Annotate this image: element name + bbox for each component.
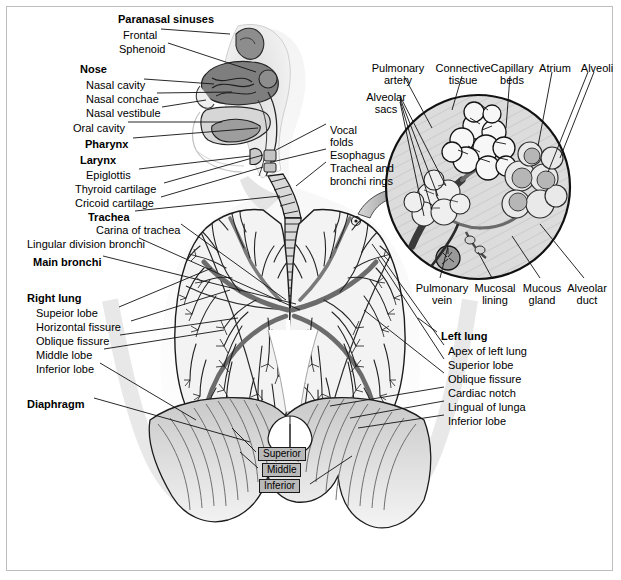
label-left-lung-3: Oblique fissure — [448, 373, 521, 385]
label-mid-column-4: bronchi rings — [330, 175, 393, 187]
lobe-box-1: Middle — [262, 463, 301, 477]
label-left-lung-2: Superior lobe — [448, 359, 513, 371]
label-left-lung-0: Left lung — [441, 330, 487, 342]
label-left-column-6: Horizontal fissure — [36, 321, 121, 333]
label-left-lung-4: Cardiac notch — [448, 387, 516, 399]
label-left-lung-5: Lingual of lunga — [448, 401, 526, 413]
label-upper-airway-1: Frontal — [123, 29, 157, 41]
respiratory-system-figure: Paranasal sinusesFrontalSphenoidNoseNasa… — [0, 0, 621, 580]
label-upper-airway-4: Nasal cavity — [86, 79, 145, 91]
label-left-column-0: Trachea — [88, 211, 130, 223]
label-left-column-10: Diaphragm — [27, 398, 84, 410]
label-inset-top-0: Pulmonaryartery — [367, 62, 429, 86]
label-left-column-8: Middle lobe — [36, 349, 92, 361]
label-upper-airway-8: Pharynx — [85, 138, 128, 150]
label-left-lung-1: Apex of left lung — [448, 345, 527, 357]
label-inset-top-4: Alveoli — [576, 62, 618, 74]
label-left-column-7: Oblique fissure — [36, 335, 109, 347]
label-inset-top-3: Atrium — [534, 62, 576, 74]
label-left-column-5: Supeior lobe — [36, 307, 98, 319]
label-upper-airway-3: Nose — [80, 63, 107, 75]
label-upper-airway-5: Nasal conchae — [86, 93, 159, 105]
label-inset-bottom-2: Mucousgland — [518, 282, 566, 306]
label-left-column-1: Carina of trachea — [96, 224, 180, 236]
lobe-box-2: Inferior — [259, 479, 300, 493]
label-inset-bottom-1: Mucosallining — [470, 282, 520, 306]
label-upper-airway-12: Cricoid cartilage — [75, 197, 154, 209]
label-mid-column-1: folds — [330, 136, 353, 148]
label-inset-left-0: Alveolarsacs — [360, 91, 412, 115]
lobe-box-0: Superior — [258, 447, 306, 461]
label-left-column-2: Lingular division bronchi — [27, 238, 145, 250]
label-left-column-4: Right lung — [27, 292, 81, 304]
label-upper-airway-7: Oral cavity — [73, 122, 125, 134]
label-left-column-9: Inferior lobe — [36, 363, 94, 375]
label-inset-bottom-0: Pulmonaryvein — [414, 282, 470, 306]
label-left-lung-6: Inferior lobe — [448, 415, 506, 427]
label-upper-airway-10: Epiglottis — [86, 169, 131, 181]
label-mid-column-3: Tracheal and — [330, 162, 394, 174]
label-left-column-3: Main bronchi — [33, 256, 101, 268]
label-mid-column-2: Esophagus — [330, 149, 385, 161]
label-upper-airway-6: Nasal vestibule — [86, 107, 161, 119]
label-mid-column-0: Vocal — [330, 124, 357, 136]
label-inset-top-2: Capillarybeds — [483, 62, 541, 86]
label-inset-bottom-3: Alveolarduct — [562, 282, 612, 306]
label-upper-airway-9: Larynx — [80, 154, 116, 166]
label-upper-airway-0: Paranasal sinuses — [118, 13, 214, 25]
label-upper-airway-2: Sphenoid — [119, 43, 166, 55]
label-upper-airway-11: Thyroid cartilage — [75, 183, 156, 195]
